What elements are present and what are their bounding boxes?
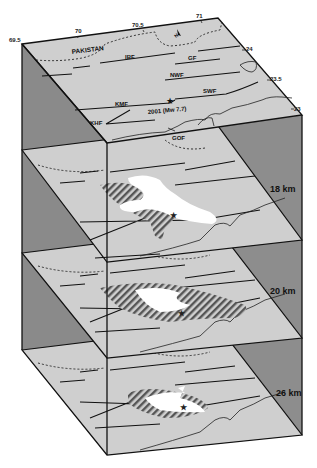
- depth-label-26km: 26 km: [276, 388, 302, 398]
- lat-tick-1: 23.5: [270, 76, 282, 82]
- fault-label-GOF: GOF: [172, 135, 185, 141]
- fault-label-GF: GF: [188, 55, 197, 61]
- lon-tick-2: 70.5: [132, 22, 144, 28]
- fault-label-NWF: NWF: [170, 72, 184, 78]
- lon-tick-0: 69.5: [9, 37, 21, 43]
- lon-tick-1: 70: [75, 28, 82, 34]
- epicenter-star: ★: [166, 96, 174, 106]
- fault-label-KMF: KMF: [115, 101, 128, 107]
- svg-text:★: ★: [180, 403, 188, 412]
- lat-tick-2: 23: [294, 106, 301, 112]
- block-diagram: ★ ★ ★ ★ 6: [0, 0, 317, 468]
- fault-label-IBF: IBF: [125, 54, 135, 60]
- depth-label-18km: 18 km: [270, 184, 296, 194]
- lat-tick-0: 24: [246, 46, 253, 52]
- svg-text:★: ★: [170, 211, 178, 220]
- fault-label-KHF: KHF: [90, 120, 103, 126]
- depth-label-20km: 20 km: [270, 286, 296, 296]
- fault-label-SWF: SWF: [203, 88, 217, 94]
- svg-text:★: ★: [178, 309, 186, 318]
- lon-tick-3: 71: [196, 13, 203, 19]
